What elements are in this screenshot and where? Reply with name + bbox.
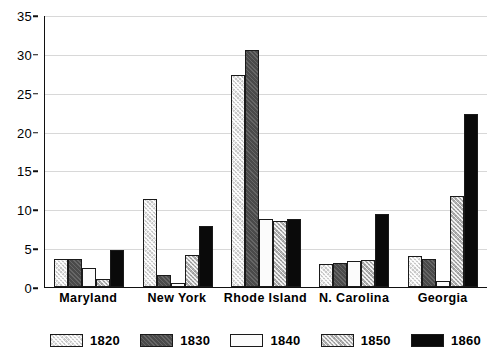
bar[interactable] (273, 221, 287, 287)
bar[interactable] (185, 255, 199, 287)
bar[interactable] (464, 114, 478, 287)
legend-label: 1820 (90, 333, 120, 348)
x-axis-label-georgia: Georgia (398, 291, 487, 313)
legend-item-1830[interactable]: 1830 (140, 333, 210, 348)
y-axis-tick (33, 248, 38, 250)
y-axis-tick (33, 132, 38, 134)
bar[interactable] (375, 214, 389, 287)
legend-label: 1830 (180, 333, 210, 348)
chart-legend: 18201830184018501860 (44, 327, 487, 353)
y-axis-tick-label: 30 (17, 47, 32, 62)
y-axis: 05101520253035 (0, 16, 38, 288)
bar[interactable] (361, 260, 375, 287)
bar[interactable] (319, 264, 333, 287)
y-axis-tick (33, 171, 38, 173)
bar[interactable] (199, 226, 213, 287)
gridline (45, 288, 487, 289)
bar[interactable] (171, 283, 185, 287)
y-axis-tick-label: 25 (17, 86, 32, 101)
legend-label: 1860 (451, 333, 481, 348)
bar[interactable] (287, 219, 301, 287)
y-axis-tick-label: 35 (17, 9, 32, 24)
bar-group (399, 16, 487, 287)
y-axis-tick (33, 210, 38, 212)
legend-label: 1840 (270, 333, 300, 348)
y-axis-tick-label: 5 (24, 242, 32, 257)
legend-item-1820[interactable]: 1820 (50, 333, 120, 348)
y-axis-tick-label: 0 (24, 281, 32, 296)
y-axis-tick (33, 93, 38, 95)
x-axis-label-rhode-island: Rhode Island (221, 291, 310, 313)
bar[interactable] (231, 75, 245, 287)
bar-chart: 05101520253035 MarylandNew YorkRhode Isl… (0, 0, 503, 362)
bar[interactable] (82, 268, 96, 287)
bar-groups (45, 16, 487, 287)
legend-swatch-icon (411, 334, 444, 347)
bar[interactable] (422, 259, 436, 287)
legend-swatch-icon (50, 334, 83, 347)
legend-item-1840[interactable]: 1840 (230, 333, 300, 348)
y-axis-tick (33, 287, 38, 289)
bar[interactable] (96, 279, 110, 287)
bar[interactable] (110, 250, 124, 287)
bar[interactable] (450, 196, 464, 287)
bar[interactable] (245, 50, 259, 287)
y-axis-tick (33, 15, 38, 17)
bar[interactable] (157, 275, 171, 287)
bar[interactable] (347, 261, 361, 287)
bar-group (310, 16, 398, 287)
y-axis-tick-label: 20 (17, 125, 32, 140)
y-axis-tick (33, 54, 38, 56)
x-axis-label-new-york: New York (133, 291, 222, 313)
bar[interactable] (54, 259, 68, 287)
legend-swatch-icon (230, 334, 263, 347)
bar-group (222, 16, 310, 287)
x-axis-labels: MarylandNew YorkRhode IslandN. CarolinaG… (44, 291, 487, 313)
bar-group (133, 16, 221, 287)
bar[interactable] (436, 281, 450, 287)
bar[interactable] (408, 256, 422, 287)
y-axis-tick-label: 15 (17, 164, 32, 179)
plot-area (44, 16, 487, 288)
bar[interactable] (259, 219, 273, 287)
legend-swatch-icon (321, 334, 354, 347)
legend-swatch-icon (140, 334, 173, 347)
y-axis-tick-label: 10 (17, 203, 32, 218)
legend-item-1860[interactable]: 1860 (411, 333, 481, 348)
bar-group (45, 16, 133, 287)
legend-label: 1850 (361, 333, 391, 348)
x-axis-label-n-carolina: N. Carolina (310, 291, 399, 313)
bar[interactable] (68, 259, 82, 287)
bar[interactable] (143, 199, 157, 287)
legend-item-1850[interactable]: 1850 (321, 333, 391, 348)
x-axis-label-maryland: Maryland (44, 291, 133, 313)
bar[interactable] (333, 263, 347, 287)
